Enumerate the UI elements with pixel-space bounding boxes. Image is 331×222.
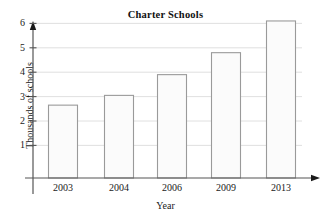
y-axis-arrow-icon (30, 21, 36, 30)
x-tick-label: 2009 (196, 182, 256, 193)
bar (49, 105, 78, 178)
x-tick-label: 2013 (251, 182, 311, 193)
x-tick-label: 2003 (33, 182, 93, 193)
chart-container: Charter Schools Thousands of schools Yea… (0, 0, 331, 222)
bar (267, 21, 296, 178)
y-tick-label: 5 (9, 43, 25, 53)
y-tick-label: 3 (9, 92, 25, 102)
x-tick-label: 2006 (142, 182, 202, 193)
bars-group (49, 21, 296, 178)
x-tick-label: 2004 (89, 182, 149, 193)
y-tick-label: 4 (9, 67, 25, 77)
bar (158, 75, 187, 178)
y-tick-label: 6 (9, 18, 25, 28)
x-axis-arrow-icon (311, 175, 320, 181)
bar (212, 53, 241, 178)
y-tick-label: 2 (9, 116, 25, 126)
bar (105, 95, 134, 178)
y-tick-label: 1 (9, 140, 25, 150)
